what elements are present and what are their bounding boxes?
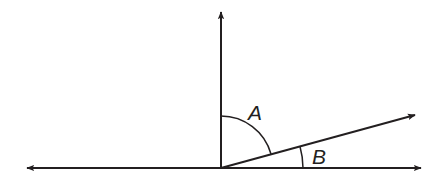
angle-diagram: A B (0, 0, 437, 181)
angle-b-label: B (312, 145, 326, 168)
angle-a-label: A (246, 101, 262, 124)
angle-a-arc (221, 116, 271, 154)
angle-b-arc (300, 147, 303, 169)
